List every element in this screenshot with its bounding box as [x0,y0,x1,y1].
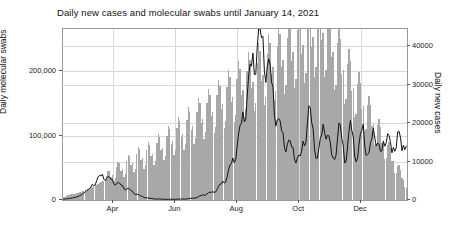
y-axis-left-tick-mark [59,135,62,136]
x-axis-tick-mark [174,200,175,203]
y-axis-left-tick-label: 100,000 [10,130,56,139]
chart-title: Daily new cases and molecular swabs unti… [57,7,319,18]
x-axis-tick-mark [298,200,299,203]
y-axis-left-tick-label: 200,000 [10,65,56,74]
y-axis-right-tick-mark [407,45,410,46]
y-axis-right-tick-mark [407,84,410,85]
y-axis-right-tick-mark [407,122,410,123]
x-axis-tick-mark [236,200,237,203]
x-axis-tick-label: Jun [168,204,180,213]
plot-area [62,28,408,201]
y-axis-left-tick-mark [59,199,62,200]
y-axis-right-label: Daily new cases [433,72,443,133]
y-axis-right-tick-mark [407,199,410,200]
gridline-horizontal [63,200,407,201]
x-axis-tick-mark [112,200,113,203]
x-axis-tick-label: Oct [292,204,304,213]
y-axis-right-tick-label: 30000 [412,79,433,88]
y-axis-left-label: Daily molecular swabs [0,29,8,114]
y-axis-left-tick-mark [59,70,62,71]
x-axis-tick-label: Apr [107,204,119,213]
gridline-horizontal [63,200,407,201]
y-axis-right-tick-mark [407,161,410,162]
cases-line-series [63,29,407,200]
y-axis-right-tick-label: 40000 [412,40,433,49]
y-axis-right-tick-label: 10000 [412,156,433,165]
x-axis-tick-mark [360,200,361,203]
x-axis-tick-label: Dec [353,204,366,213]
x-axis-tick-label: Aug [230,204,243,213]
y-axis-right-tick-label: 20000 [412,118,433,127]
y-axis-right-tick-label: 0 [412,195,416,204]
y-axis-left-tick-label: 0 [10,195,56,204]
chart-figure: Daily new cases and molecular swabs unti… [0,0,468,231]
